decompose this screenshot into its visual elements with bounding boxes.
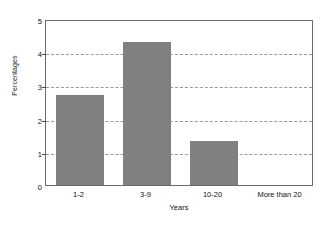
gridline (46, 87, 312, 88)
gridline (46, 54, 312, 55)
bar-3-9 (123, 42, 171, 185)
x-tick-label: 3-9 (140, 190, 151, 199)
bar-1-2 (56, 95, 104, 185)
y-tick-label: 0 (38, 183, 42, 192)
y-tick-label: 5 (38, 17, 42, 26)
y-tick-mark (42, 154, 46, 155)
plot-area: 012345 (45, 20, 313, 186)
y-axis-title: Percentages (11, 36, 18, 116)
x-axis-title: Years (45, 203, 313, 212)
x-tick-label: 10-20 (203, 190, 222, 199)
y-tick-mark (42, 54, 46, 55)
x-tick-label: More than 20 (257, 190, 301, 199)
bar-chart: Percentages 012345 Years 1-23-910-20More… (0, 0, 322, 225)
y-tick-label: 3 (38, 83, 42, 92)
x-tick-label: 1-2 (73, 190, 84, 199)
y-tick-label: 2 (38, 116, 42, 125)
y-tick-label: 1 (38, 149, 42, 158)
y-tick-label: 4 (38, 50, 42, 59)
y-tick-mark (42, 121, 46, 122)
bar-10-20 (190, 141, 238, 185)
y-tick-mark (42, 87, 46, 88)
